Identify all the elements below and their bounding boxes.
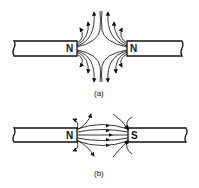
pole-label-b-right: S bbox=[131, 130, 138, 141]
caption-a: (a) bbox=[94, 89, 104, 98]
pole-label-a-right: N bbox=[130, 43, 137, 54]
figure-a: N N (a) bbox=[13, 11, 183, 98]
figure-b: N S (b) bbox=[13, 114, 187, 178]
field-lines-a bbox=[77, 11, 127, 82]
field-lines-b bbox=[73, 114, 132, 157]
caption-b: (b) bbox=[94, 169, 104, 178]
pole-label-b-left: N bbox=[66, 130, 73, 141]
magnetic-field-diagram: N N (a) bbox=[0, 0, 199, 188]
pole-label-a-left: N bbox=[66, 43, 73, 54]
